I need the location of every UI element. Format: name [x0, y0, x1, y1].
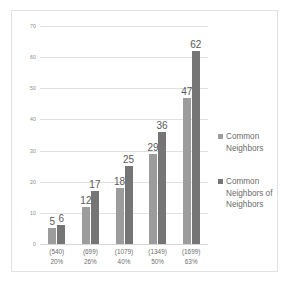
bar-group: 1217: [82, 26, 99, 244]
bar: [125, 166, 133, 244]
bar: [158, 132, 166, 244]
bar-value-label: 29: [148, 142, 159, 153]
y-axis-tick-label: 60: [30, 54, 36, 60]
bar-group: 4762: [183, 26, 200, 244]
y-axis-tick-label: 30: [30, 148, 36, 154]
y-axis-tick-label: 50: [30, 85, 36, 91]
y-axis-tick-label: 20: [30, 179, 36, 185]
legend-label: Common Neighbors: [226, 131, 288, 154]
bar: [116, 188, 124, 244]
x-axis-tick-label: (699)26%: [73, 247, 107, 267]
bar-value-label: 47: [181, 86, 192, 97]
bars-layer: 561217182529364762: [40, 26, 208, 244]
bar-value-label: 12: [80, 195, 91, 206]
bar-group: 56: [48, 26, 65, 244]
x-axis-tick-label: (1349)50%: [141, 247, 175, 267]
bar-value-label: 62: [190, 39, 201, 50]
legend-swatch-icon: [218, 134, 223, 139]
bar: [57, 225, 65, 244]
bar: [48, 228, 56, 244]
legend-entry[interactable]: Common Neighbors of Neighbors: [218, 176, 288, 211]
x-axis-tick-label: (540)20%: [40, 247, 74, 267]
bar-group: 1825: [116, 26, 133, 244]
y-axis-tick-label: 10: [30, 210, 36, 216]
chart-container: 010203040506070 561217182529364762 (540)…: [11, 10, 278, 272]
x-axis-tick-label: (1079)40%: [107, 247, 141, 267]
plot-area: 010203040506070 561217182529364762: [40, 26, 208, 244]
chart-legend: Common NeighborsCommon Neighbors of Neig…: [218, 131, 288, 233]
x-axis-line: [40, 244, 208, 245]
bar-group: 2936: [149, 26, 166, 244]
bar-value-label: 18: [114, 176, 125, 187]
y-axis-tick-label: 0: [33, 241, 36, 247]
legend-label: Common Neighbors of Neighbors: [226, 176, 288, 211]
x-axis-labels: (540)20%(699)26%(1079)40%(1349)50%(1699)…: [40, 247, 208, 275]
y-axis-tick-label: 40: [30, 116, 36, 122]
bar: [192, 51, 200, 244]
bar-value-label: 36: [157, 120, 168, 131]
bar: [149, 154, 157, 244]
legend-entry[interactable]: Common Neighbors: [218, 131, 288, 154]
bar-value-label: 17: [89, 179, 100, 190]
legend-swatch-icon: [218, 179, 223, 184]
bar: [183, 98, 191, 244]
bar-value-label: 6: [59, 213, 65, 224]
bar: [82, 207, 90, 244]
x-axis-tick-label: (1699)63%: [174, 247, 208, 267]
bar-value-label: 25: [123, 154, 134, 165]
bar: [91, 191, 99, 244]
bar-value-label: 5: [50, 216, 56, 227]
y-axis-tick-label: 70: [30, 23, 36, 29]
